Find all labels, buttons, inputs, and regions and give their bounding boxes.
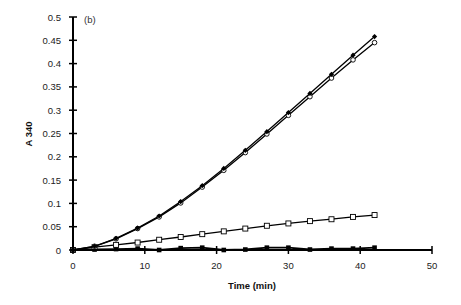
open-square-marker <box>200 232 205 237</box>
open-square-marker <box>264 223 269 228</box>
open-square-marker <box>178 234 183 239</box>
x-tick-label: 20 <box>211 260 222 271</box>
x-tick-label: 30 <box>283 260 294 271</box>
open-square-marker <box>351 214 356 219</box>
open-square-marker <box>243 226 248 231</box>
open-square-marker <box>135 240 140 245</box>
y-tick-label: 0.4 <box>48 58 61 69</box>
x-tick-label: 50 <box>427 260 438 271</box>
x-tick-label: 10 <box>140 260 151 271</box>
y-tick-label: 0.1 <box>48 198 61 209</box>
open-square-marker <box>286 221 291 226</box>
x-axis-title: Time (min) <box>228 280 276 291</box>
axes: 0102030405000.050.10.150.20.250.30.350.4… <box>43 12 438 272</box>
y-tick-label: 0.3 <box>48 105 61 116</box>
plot-area <box>70 34 377 253</box>
open-square-marker <box>157 237 162 242</box>
y-tick-label: 0.15 <box>43 175 62 186</box>
x-tick-label: 40 <box>355 260 366 271</box>
open-square-marker <box>221 229 226 234</box>
y-axis-title: A 340 <box>23 122 34 147</box>
open-square-marker <box>114 242 119 247</box>
y-tick-label: 0.5 <box>48 12 61 23</box>
panel-label: (b) <box>84 14 96 25</box>
line-chart: 0102030405000.050.10.150.20.250.30.350.4… <box>0 0 461 305</box>
open-circle-marker <box>372 40 377 45</box>
open-circle-marker <box>351 58 356 63</box>
y-tick-label: 0.2 <box>48 151 61 162</box>
y-tick-label: 0.05 <box>43 221 62 232</box>
y-tick-label: 0.35 <box>43 81 62 92</box>
open-square-marker <box>372 213 377 218</box>
y-tick-label: 0 <box>56 245 61 256</box>
x-tick-label: 0 <box>70 260 75 271</box>
open-square-marker <box>307 219 312 224</box>
y-tick-label: 0.25 <box>43 128 62 139</box>
y-tick-label: 0.45 <box>43 35 62 46</box>
open-square-marker <box>329 217 334 222</box>
